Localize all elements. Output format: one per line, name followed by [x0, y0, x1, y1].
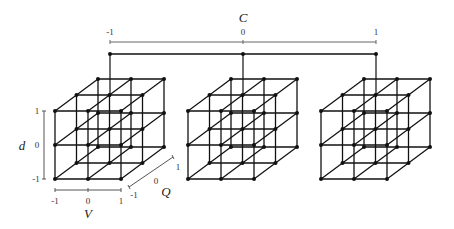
lattice-node — [428, 145, 432, 149]
v-axis: -1 0 1 V — [51, 188, 123, 221]
lattice-node — [341, 93, 345, 97]
lattice-node — [86, 109, 90, 113]
d-axis-label: d — [19, 138, 26, 153]
lattice-node — [162, 145, 166, 149]
lattice-node — [53, 109, 57, 113]
lattice-node — [208, 161, 212, 165]
lattice-node — [108, 161, 112, 165]
lattice-node — [141, 127, 145, 131]
lattice-node — [86, 143, 90, 147]
c-tick-0: 0 — [241, 27, 246, 37]
lattice-node — [129, 145, 133, 149]
lattice-node — [186, 177, 190, 181]
lattice-node — [395, 145, 399, 149]
lattice-node — [241, 93, 245, 97]
lattice-node — [129, 111, 133, 115]
lattice-node — [407, 93, 411, 97]
lattice-node — [186, 143, 190, 147]
lattice-node — [141, 93, 145, 97]
q-tick-0: 0 — [154, 176, 159, 186]
lattice-node — [352, 177, 356, 181]
lattice-node — [274, 93, 278, 97]
lattice-node — [352, 109, 356, 113]
lattice-node — [119, 177, 123, 181]
lattice-node — [241, 127, 245, 131]
lattice-node — [295, 145, 299, 149]
v-tick-0: 0 — [86, 196, 91, 206]
lattice-node — [241, 161, 245, 165]
lattice-node — [119, 109, 123, 113]
lattice-node — [362, 111, 366, 115]
lattice-node — [374, 127, 378, 131]
lattice-node — [295, 111, 299, 115]
lattice-node — [53, 143, 57, 147]
lattice-node — [108, 127, 112, 131]
lattice-node — [96, 145, 100, 149]
lattice-node — [208, 127, 212, 131]
q-axis-label: Q — [161, 184, 171, 199]
lattice-node — [262, 111, 266, 115]
lattice-node — [252, 177, 256, 181]
lattice-diagram: C -1 0 1 d 1 0 -1 -1 0 1 V — [0, 0, 454, 229]
v-tick-neg1: -1 — [51, 196, 59, 206]
lattice-node — [186, 109, 190, 113]
lattice-node — [274, 161, 278, 165]
lattice-node — [407, 127, 411, 131]
lattice-node — [53, 177, 57, 181]
lattice-node — [141, 161, 145, 165]
lattice-node — [75, 161, 79, 165]
lattice-node — [229, 77, 233, 81]
q-axis: -1 0 1 Q — [128, 155, 180, 200]
q-tick-1: 1 — [176, 162, 181, 172]
lattice-node — [129, 77, 133, 81]
lattice-node — [341, 161, 345, 165]
lattice-node — [262, 145, 266, 149]
lattice-node — [274, 127, 278, 131]
d-tick-neg1: -1 — [32, 174, 40, 184]
lattice-node — [75, 93, 79, 97]
lattice-node — [385, 143, 389, 147]
lattice-node — [252, 143, 256, 147]
lattice-node — [75, 127, 79, 131]
lattice-node — [385, 177, 389, 181]
lattice-node — [86, 177, 90, 181]
c-axis: C -1 0 1 — [106, 10, 378, 44]
lattice-node — [395, 111, 399, 115]
lattice-node — [108, 93, 112, 97]
q-tick-neg1: -1 — [130, 190, 138, 200]
c-axis-label: C — [239, 10, 248, 25]
lattice-node — [162, 111, 166, 115]
lattice-node — [219, 143, 223, 147]
lattice-node — [362, 77, 366, 81]
lattice-node — [319, 109, 323, 113]
lattice-node — [96, 77, 100, 81]
lattice-node — [229, 111, 233, 115]
lattice-node — [385, 109, 389, 113]
lattice-node — [119, 143, 123, 147]
lattice-node — [352, 143, 356, 147]
lattice-node — [96, 111, 100, 115]
v-axis-label: V — [84, 206, 94, 221]
lattice-node — [407, 161, 411, 165]
d-tick-0: 0 — [35, 140, 40, 150]
lattice-node — [319, 177, 323, 181]
lattice-node — [252, 109, 256, 113]
d-axis: d 1 0 -1 — [19, 106, 46, 184]
lattice-node — [428, 111, 432, 115]
lattice-node — [395, 77, 399, 81]
lattice-node — [341, 127, 345, 131]
v-tick-1: 1 — [119, 196, 124, 206]
lattice-node — [428, 77, 432, 81]
lattice-node — [208, 93, 212, 97]
lattice-node — [319, 143, 323, 147]
lattice-node — [374, 93, 378, 97]
lattice-node — [219, 109, 223, 113]
lattice-node — [262, 77, 266, 81]
lattice-node — [229, 145, 233, 149]
c-tick-1: 1 — [374, 27, 379, 37]
lattice-node — [295, 77, 299, 81]
c-tick-neg1: -1 — [106, 27, 114, 37]
d-tick-1: 1 — [35, 106, 40, 116]
lattice-node — [374, 161, 378, 165]
lattice-node — [162, 77, 166, 81]
